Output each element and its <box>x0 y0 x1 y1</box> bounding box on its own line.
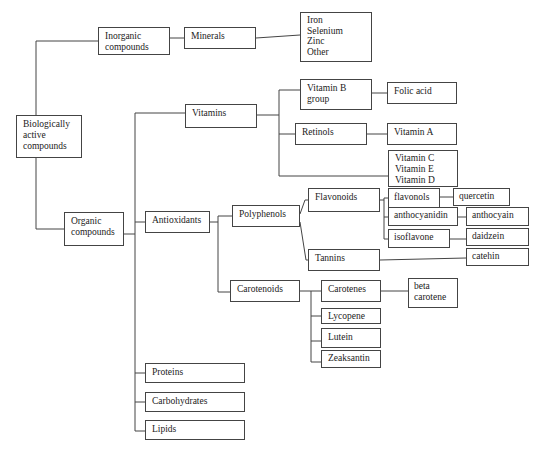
node-vitamin-a: Vitamin A <box>387 123 457 145</box>
node-organic-compounds: Organic compounds <box>64 212 124 246</box>
node-vitamin-c-e-d: Vitamin C Vitamin E Vitamin D <box>388 150 458 187</box>
node-zeaksantin: Zeaksantin <box>321 350 381 368</box>
node-beta-carotene: beta carotene <box>408 278 458 308</box>
node-tannins: Tannins <box>308 249 380 271</box>
node-anthocyanidin: anthocyanidin <box>388 207 458 226</box>
node-quercetin: quercetin <box>453 188 510 206</box>
node-isoflavone: isoflavone <box>388 229 450 248</box>
node-polyphenols: Polyphenols <box>232 205 300 227</box>
node-root: Biologically active compounds <box>16 115 82 158</box>
node-vitamins: Vitamins <box>185 104 257 128</box>
node-antioxidants: Antioxidants <box>145 211 210 233</box>
node-proteins: Proteins <box>145 363 245 383</box>
node-retinols: Retinols <box>295 123 367 145</box>
node-minerals: Minerals <box>184 27 256 49</box>
node-anthocyain: anthocyain <box>466 207 529 226</box>
node-catehin: catehin <box>466 248 529 266</box>
node-vitamin-b-group: Vitamin B group <box>300 79 372 110</box>
classification-diagram: Biologically active compounds Inorganic … <box>0 0 536 456</box>
node-flavonoids: Flavonoids <box>308 188 380 212</box>
node-lutein: Lutein <box>321 328 381 348</box>
node-carotenes: Carotenes <box>321 280 381 302</box>
node-flavonols: flavonols <box>388 188 440 208</box>
node-carbohydrates: Carbohydrates <box>145 392 245 412</box>
node-carotenoids: Carotenoids <box>230 280 300 302</box>
node-lipids: Lipids <box>145 420 245 440</box>
node-daidzein: daidzein <box>466 228 529 246</box>
node-folic-acid: Folic acid <box>387 82 457 104</box>
node-lycopene: Lycopene <box>321 308 381 324</box>
node-minerals-list: Iron Selenium Zinc Other <box>300 12 372 62</box>
node-inorganic-compounds: Inorganic compounds <box>98 27 170 55</box>
